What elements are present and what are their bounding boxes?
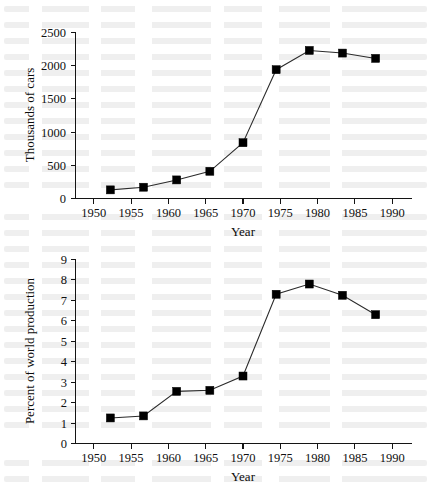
data-point-marker bbox=[239, 372, 247, 380]
percent-ytick-label-1: 1 bbox=[61, 417, 67, 431]
percent-xtick-label-1985: 1985 bbox=[342, 451, 367, 465]
cars-xtick-label-1975: 1975 bbox=[268, 206, 293, 220]
percent-plot-svg: 0 1 2 3 4 5 6 7 8 9 1950 1955 1960 1965 … bbox=[0, 245, 431, 491]
cars-xaxis-title: Year bbox=[231, 224, 256, 239]
cars-plot-svg: 0 500 1000 1500 2000 2500 1950 1955 1960… bbox=[0, 0, 431, 245]
cars-xtick-label-1950: 1950 bbox=[81, 206, 106, 220]
cars-yaxis-title: Thousands of cars bbox=[22, 68, 37, 163]
data-point-marker bbox=[272, 66, 280, 74]
percent-ytick-label-9: 9 bbox=[61, 253, 67, 267]
percent-ytick-label-2: 2 bbox=[61, 396, 67, 410]
data-point-marker bbox=[372, 54, 380, 62]
cars-xtick-label-1960: 1960 bbox=[156, 206, 181, 220]
percent-ytick-label-6: 6 bbox=[61, 314, 67, 328]
percent-axes bbox=[76, 260, 412, 444]
percent-ytick-label-7: 7 bbox=[61, 294, 67, 308]
cars-xtick-label-1985: 1985 bbox=[342, 206, 367, 220]
cars-ytick-label-1000: 1000 bbox=[41, 126, 66, 140]
percent-xtick-label-1975: 1975 bbox=[268, 451, 293, 465]
data-point-marker bbox=[106, 414, 114, 422]
data-point-marker bbox=[372, 311, 380, 319]
data-point-marker bbox=[305, 280, 313, 288]
cars-ytick-label-0: 0 bbox=[60, 192, 66, 206]
percent-y-ticks bbox=[71, 260, 76, 444]
cars-series-line bbox=[110, 50, 375, 189]
percent-series-line bbox=[110, 284, 375, 418]
percent-ytick-label-3: 3 bbox=[61, 376, 67, 390]
percent-xtick-label-1950: 1950 bbox=[81, 451, 106, 465]
percent-yaxis-title: Percent of world production bbox=[22, 277, 37, 424]
percent-ytick-label-0: 0 bbox=[61, 437, 67, 451]
data-point-marker bbox=[140, 183, 148, 191]
percent-x-ticks bbox=[94, 444, 392, 450]
percent-xtick-label-1990: 1990 bbox=[380, 451, 405, 465]
percent-ytick-label-4: 4 bbox=[61, 355, 68, 369]
data-point-marker bbox=[106, 186, 114, 194]
cars-x-ticks bbox=[94, 199, 392, 205]
percent-ytick-label-8: 8 bbox=[61, 273, 67, 287]
percent-xtick-label-1970: 1970 bbox=[231, 451, 256, 465]
data-point-marker bbox=[206, 386, 214, 394]
cars-xtick-label-1980: 1980 bbox=[305, 206, 330, 220]
cars-ytick-label-2000: 2000 bbox=[41, 59, 66, 73]
percent-xtick-label-1960: 1960 bbox=[156, 451, 181, 465]
percent-xtick-label-1965: 1965 bbox=[193, 451, 218, 465]
data-point-marker bbox=[272, 290, 280, 298]
data-point-marker bbox=[338, 49, 346, 57]
cars-y-ticks bbox=[71, 33, 76, 199]
cars-axes bbox=[76, 33, 412, 199]
data-point-marker bbox=[338, 291, 346, 299]
data-point-marker bbox=[173, 176, 181, 184]
cars-xtick-label-1990: 1990 bbox=[380, 206, 405, 220]
data-point-marker bbox=[305, 46, 313, 54]
percent-xtick-label-1955: 1955 bbox=[119, 451, 144, 465]
chart-thousands-of-cars: 0 500 1000 1500 2000 2500 1950 1955 1960… bbox=[0, 0, 431, 245]
data-point-marker bbox=[206, 167, 214, 175]
data-point-marker bbox=[173, 387, 181, 395]
cars-series-markers bbox=[106, 46, 379, 193]
cars-ytick-label-500: 500 bbox=[47, 159, 66, 173]
cars-ytick-label-2500: 2500 bbox=[41, 26, 66, 40]
cars-ytick-label-1500: 1500 bbox=[41, 92, 66, 106]
data-point-marker bbox=[239, 139, 247, 147]
percent-ytick-label-5: 5 bbox=[61, 335, 67, 349]
percent-xtick-label-1980: 1980 bbox=[305, 451, 330, 465]
data-point-marker bbox=[140, 412, 148, 420]
cars-xtick-label-1965: 1965 bbox=[193, 206, 218, 220]
cars-xtick-label-1955: 1955 bbox=[119, 206, 144, 220]
chart-percent-of-world-production: 0 1 2 3 4 5 6 7 8 9 1950 1955 1960 1965 … bbox=[0, 245, 431, 491]
percent-xaxis-title: Year bbox=[231, 469, 256, 484]
cars-xtick-label-1970: 1970 bbox=[231, 206, 256, 220]
percent-series-markers bbox=[106, 280, 379, 422]
